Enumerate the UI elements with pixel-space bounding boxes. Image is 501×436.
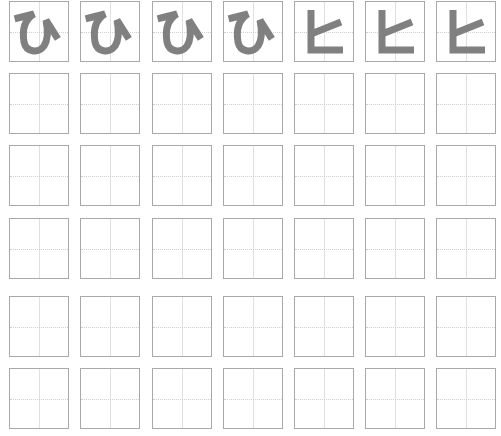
practice-cell — [436, 73, 496, 134]
practice-cell — [80, 218, 140, 279]
practice-cell — [436, 296, 496, 357]
practice-cell — [223, 73, 283, 134]
practice-cell — [436, 368, 496, 429]
hiragana-hi-glyph — [224, 2, 282, 61]
horizontal-guide-line — [224, 399, 282, 400]
practice-worksheet — [0, 0, 501, 436]
horizontal-guide-line — [295, 176, 353, 177]
practice-cell — [9, 218, 69, 279]
horizontal-guide-line — [10, 176, 68, 177]
horizontal-guide-line — [366, 176, 424, 177]
horizontal-guide-line — [437, 249, 495, 250]
horizontal-guide-line — [295, 327, 353, 328]
horizontal-guide-line — [10, 327, 68, 328]
practice-cell — [152, 218, 212, 279]
practice-cell — [80, 145, 140, 206]
horizontal-guide-line — [437, 176, 495, 177]
horizontal-guide-line — [224, 327, 282, 328]
horizontal-guide-line — [366, 327, 424, 328]
horizontal-guide-line — [224, 249, 282, 250]
katakana-hi-glyph — [437, 2, 495, 61]
horizontal-guide-line — [437, 104, 495, 105]
practice-cell — [365, 368, 425, 429]
horizontal-guide-line — [224, 176, 282, 177]
horizontal-guide-line — [366, 249, 424, 250]
practice-cell — [80, 296, 140, 357]
hiragana-hi-glyph — [81, 2, 139, 61]
horizontal-guide-line — [81, 249, 139, 250]
practice-cell — [365, 73, 425, 134]
horizontal-guide-line — [10, 399, 68, 400]
horizontal-guide-line — [81, 327, 139, 328]
horizontal-guide-line — [295, 399, 353, 400]
practice-cell — [223, 145, 283, 206]
model-character-cell — [80, 1, 140, 62]
practice-cell — [223, 368, 283, 429]
horizontal-guide-line — [295, 249, 353, 250]
practice-cell — [9, 296, 69, 357]
horizontal-guide-line — [366, 399, 424, 400]
horizontal-guide-line — [81, 104, 139, 105]
practice-cell — [294, 368, 354, 429]
horizontal-guide-line — [81, 176, 139, 177]
horizontal-guide-line — [153, 399, 211, 400]
practice-cell — [80, 73, 140, 134]
model-character-cell — [436, 1, 496, 62]
horizontal-guide-line — [437, 327, 495, 328]
hiragana-hi-glyph — [153, 2, 211, 61]
model-character-cell — [223, 1, 283, 62]
practice-cell — [294, 145, 354, 206]
horizontal-guide-line — [10, 249, 68, 250]
horizontal-guide-line — [153, 176, 211, 177]
model-character-cell — [365, 1, 425, 62]
practice-cell — [9, 73, 69, 134]
practice-cell — [152, 296, 212, 357]
practice-cell — [152, 145, 212, 206]
horizontal-guide-line — [224, 104, 282, 105]
horizontal-guide-line — [437, 399, 495, 400]
horizontal-guide-line — [366, 104, 424, 105]
model-character-cell — [152, 1, 212, 62]
horizontal-guide-line — [81, 399, 139, 400]
practice-cell — [294, 218, 354, 279]
horizontal-guide-line — [153, 104, 211, 105]
hiragana-hi-glyph — [10, 2, 68, 61]
model-character-cell — [9, 1, 69, 62]
practice-cell — [365, 218, 425, 279]
practice-cell — [294, 296, 354, 357]
practice-cell — [9, 145, 69, 206]
practice-cell — [9, 368, 69, 429]
practice-cell — [152, 368, 212, 429]
practice-cell — [365, 296, 425, 357]
practice-cell — [436, 145, 496, 206]
practice-cell — [223, 296, 283, 357]
practice-cell — [436, 218, 496, 279]
model-character-cell — [294, 1, 354, 62]
horizontal-guide-line — [295, 104, 353, 105]
horizontal-guide-line — [153, 327, 211, 328]
practice-cell — [365, 145, 425, 206]
katakana-hi-glyph — [295, 2, 353, 61]
katakana-hi-glyph — [366, 2, 424, 61]
practice-cell — [223, 218, 283, 279]
horizontal-guide-line — [153, 249, 211, 250]
horizontal-guide-line — [10, 104, 68, 105]
practice-cell — [80, 368, 140, 429]
practice-cell — [152, 73, 212, 134]
practice-cell — [294, 73, 354, 134]
